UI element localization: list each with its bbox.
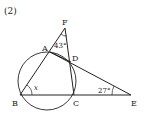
angle-arc-e [112,86,114,95]
line-bf [20,28,65,95]
label-a: A [41,44,48,53]
line-ae [50,52,131,95]
chord-ad [50,52,71,62]
label-c: C [73,99,79,108]
angle-arc-b [27,85,32,95]
label-e: E [131,99,137,108]
angle-label-x: x [34,84,38,92]
angle-label-27: 27° [98,87,110,95]
label-f: F [62,18,68,27]
label-b: B [12,99,18,108]
label-d: D [72,54,78,63]
geometry-diagram: (2) F A D B C E 43° 27° x [0,0,151,125]
angle-label-43: 43° [54,42,66,50]
problem-number: (2) [4,6,17,16]
